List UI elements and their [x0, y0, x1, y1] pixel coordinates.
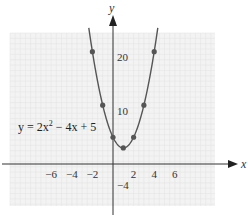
y-tick-label: 10: [117, 105, 129, 117]
x-axis-arrow-icon: [228, 160, 238, 168]
x-tick-label: 6: [172, 168, 178, 180]
y-axis-label: y: [108, 1, 115, 15]
x-axis-label: x: [240, 157, 247, 171]
y-tick-label: −4: [117, 179, 129, 191]
y-axis-arrow-icon: [109, 15, 117, 26]
parabola-chart: x y −6−4−2246 2010−4 y = 2x2 − 4x + 5: [0, 0, 248, 224]
x-tick-label: −4: [66, 168, 78, 180]
data-point: [121, 145, 126, 150]
x-tick-label: −2: [87, 168, 99, 180]
data-point: [131, 135, 136, 140]
data-point: [100, 103, 105, 108]
x-tick-label: 2: [131, 168, 137, 180]
y-tick-label: 20: [117, 51, 129, 63]
data-point: [152, 49, 157, 54]
data-point: [141, 103, 146, 108]
data-point: [90, 49, 95, 54]
x-tick-label: −6: [45, 168, 57, 180]
data-point: [110, 135, 115, 140]
x-tick-label: 4: [151, 168, 157, 180]
equation-label: y = 2x2 − 4x + 5: [18, 119, 96, 134]
